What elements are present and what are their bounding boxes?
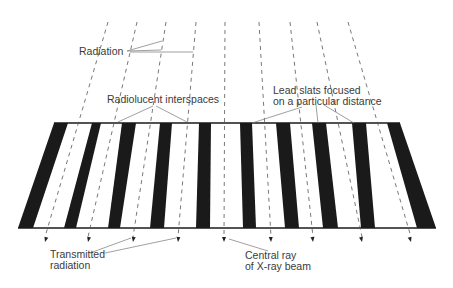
anti-scatter-grid <box>18 123 436 228</box>
lead-leader-left <box>252 107 302 123</box>
diagram-canvas <box>0 0 453 288</box>
arrowhead-icon <box>132 237 136 242</box>
arrowhead-icon <box>408 237 412 242</box>
arrowhead-icon <box>310 237 314 242</box>
label-lead-slats-line2: on a particular distance <box>273 96 382 107</box>
label-radiation: Radiation <box>79 46 123 57</box>
arrowhead-icon <box>87 237 91 242</box>
lead-leader-mid <box>316 105 318 123</box>
transmitted-leader-2 <box>105 238 176 253</box>
arrowhead-icon <box>222 237 226 242</box>
lead-leader-right <box>324 105 354 123</box>
arrowhead-icon <box>44 237 48 242</box>
radiation-leader <box>127 41 162 51</box>
radiolucent-leader-right <box>156 106 187 122</box>
arrowhead-icon <box>359 237 363 242</box>
radiolucent-leader-left <box>118 106 153 122</box>
label-transmitted-line2: radiation <box>50 260 90 271</box>
arrowhead-icon <box>269 237 273 242</box>
grid-diagram: Radiation Radiolucent interspaces Lead s… <box>0 0 453 288</box>
label-radiolucent-interspaces: Radiolucent interspaces <box>107 94 219 105</box>
label-central-ray-line2: of X-ray beam <box>245 261 311 272</box>
arrowhead-icon <box>176 237 180 242</box>
